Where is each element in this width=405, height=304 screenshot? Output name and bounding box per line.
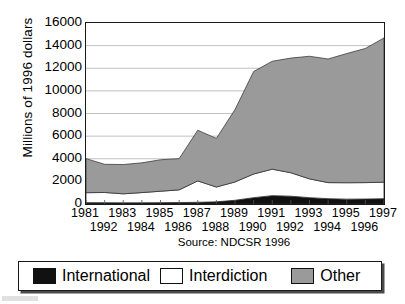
- x-tick-label: 1993: [292, 206, 326, 220]
- legend-swatch-other: [291, 268, 314, 284]
- x-tick-label: 1983: [105, 206, 139, 220]
- plot-area: [85, 22, 385, 205]
- scan-artifact: [2, 296, 38, 301]
- y-axis-tick-labels: 1600014000120001000080006000400020000: [26, 0, 82, 304]
- chart-figure: Millions of 1996 dollars 160001400012000…: [0, 0, 405, 304]
- x-tick-label: 1986: [161, 220, 195, 234]
- y-tick-label: 14000: [30, 40, 82, 50]
- x-tick-label: 1997: [366, 206, 400, 220]
- x-tick-label: 1991: [254, 206, 288, 220]
- legend-item-interdiction: Interdiction: [160, 267, 267, 285]
- legend-label-other: Other: [320, 267, 360, 285]
- y-tick-label: 10000: [30, 85, 82, 95]
- x-tick-label: 1981: [68, 206, 102, 220]
- x-tick-label: 1985: [143, 206, 177, 220]
- x-tick-label: 1996: [347, 220, 381, 234]
- x-tick-label: 1989: [217, 206, 251, 220]
- y-tick-label: 4000: [30, 153, 82, 163]
- area-series-other: [86, 38, 384, 194]
- chart-source-note: Source: NDCSR 1996: [85, 236, 383, 248]
- x-tick-label: 1995: [329, 206, 363, 220]
- legend-label-international: International: [62, 267, 150, 285]
- x-axis-tick-labels-row1: 198119831985198719891991199319951997: [85, 206, 383, 220]
- chart-legend: International Interdiction Other: [18, 261, 382, 291]
- legend-label-interdiction: Interdiction: [189, 267, 267, 285]
- x-tick-label: 1987: [180, 206, 214, 220]
- x-tick-label: 1984: [124, 220, 158, 234]
- x-tick-label: 1992: [273, 220, 307, 234]
- y-tick-label: 16000: [30, 17, 82, 27]
- x-tick-label: 1992: [87, 220, 121, 234]
- stacked-area-plot: [86, 23, 384, 204]
- x-axis-tick-labels-row2: 19921984198619881990199219941996: [85, 220, 383, 234]
- y-tick-label: 12000: [30, 62, 82, 72]
- legend-swatch-interdiction: [160, 268, 183, 284]
- legend-item-other: Other: [291, 267, 360, 285]
- x-tick-label: 1988: [198, 220, 232, 234]
- y-tick-label: 2000: [30, 175, 82, 185]
- legend-item-international: International: [33, 267, 150, 285]
- y-tick-label: 8000: [30, 108, 82, 118]
- x-tick-label: 1990: [236, 220, 270, 234]
- y-tick-label: 6000: [30, 130, 82, 140]
- x-tick-label: 1994: [310, 220, 344, 234]
- legend-swatch-international: [33, 268, 56, 284]
